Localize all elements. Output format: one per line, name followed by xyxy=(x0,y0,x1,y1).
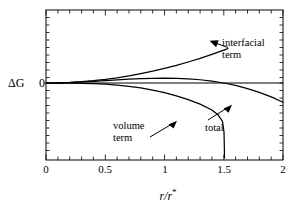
annotation-total-line1: total xyxy=(205,122,224,134)
x-tick-label-0: 0 xyxy=(33,163,59,175)
annotation-volume-line1: volume xyxy=(113,120,145,132)
annotation-interfacial-line1: interfacial xyxy=(222,37,265,49)
x-axis-title-main: r/r xyxy=(159,189,172,203)
x-tick-label-0-5: 0.5 xyxy=(92,163,118,175)
curve-interfacial-term xyxy=(46,49,228,84)
x-axis-title: r/r* xyxy=(138,184,198,200)
curve-total xyxy=(46,78,283,102)
annotation-total: total xyxy=(205,122,224,134)
x-axis-top-ticks xyxy=(46,10,283,16)
axes-frame xyxy=(46,10,283,160)
annotation-interfacial-line2: term xyxy=(222,49,265,61)
x-axis-bottom-ticks xyxy=(46,155,283,161)
x-tick-label-1: 1 xyxy=(152,163,178,175)
annotation-volume-line2: term xyxy=(113,132,145,144)
annotation-volume-term: volume term xyxy=(113,120,145,143)
x-tick-label-1-5: 1.5 xyxy=(211,163,237,175)
y-axis-zero-tick-label: 0 xyxy=(36,74,48,92)
plot-canvas xyxy=(0,0,301,210)
x-axis-title-superscript: * xyxy=(172,187,177,197)
x-tick-label-2: 2 xyxy=(270,163,296,175)
annotation-interfacial-term: interfacial term xyxy=(222,37,265,60)
nucleation-free-energy-chart: ΔG 0 0 0.5 1 1.5 2 r/r* interfacial term… xyxy=(0,0,301,210)
